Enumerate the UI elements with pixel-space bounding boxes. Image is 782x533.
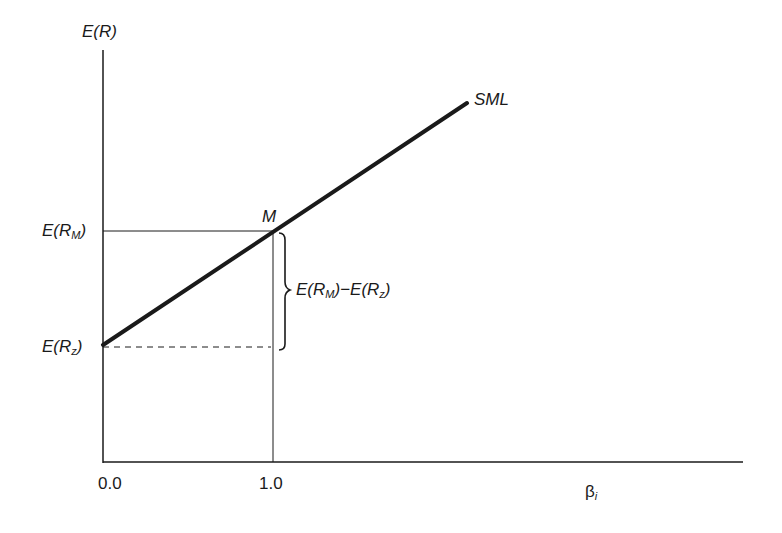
sml-label: SML [474,91,509,108]
brace-icon [279,233,290,350]
y-tick-erm: E(RM) [42,222,86,241]
x-tick-0: 0.0 [98,475,122,492]
x-axis-label: βi [585,483,597,502]
market-point-label: M [262,208,276,225]
y-tick-erz: E(Rz) [42,338,82,357]
brace-label: E(RM)−E(Rz) [296,281,391,300]
x-tick-1: 1.0 [259,475,283,492]
y-axis-label: E(R) [82,23,117,40]
diagram-canvas [0,0,782,533]
